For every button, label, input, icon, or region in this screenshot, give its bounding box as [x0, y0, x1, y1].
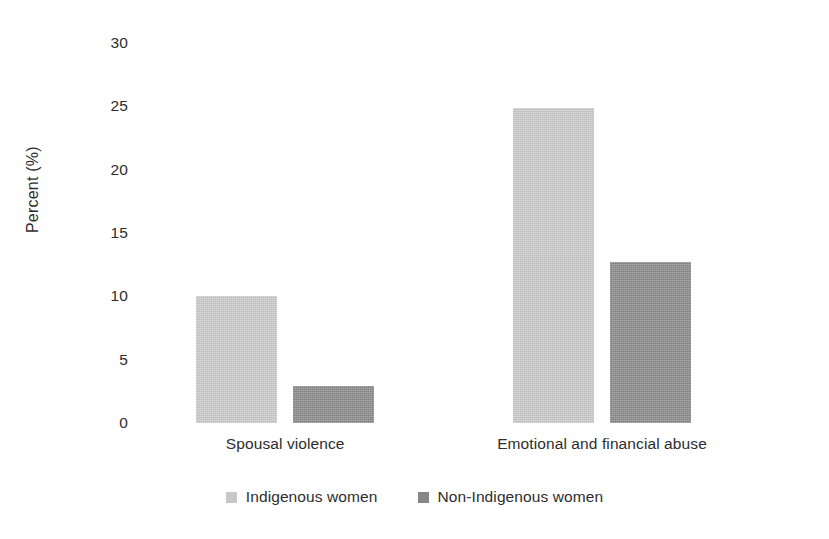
legend-item: Non-Indigenous women: [418, 488, 604, 506]
legend-swatch-icon: [418, 492, 429, 503]
bar: [513, 108, 594, 423]
y-axis-tick-label: 5: [68, 352, 128, 368]
y-axis-tick-label: 30: [68, 35, 128, 51]
y-axis-tick-label: 10: [68, 289, 128, 305]
x-axis-category-label: Spousal violence: [226, 435, 345, 453]
bar: [610, 262, 691, 423]
legend-label: Non-Indigenous women: [438, 488, 604, 506]
legend-item: Indigenous women: [226, 488, 378, 506]
legend-swatch-icon: [226, 492, 237, 503]
plot-area: 051015202530: [140, 43, 800, 423]
bar: [293, 386, 374, 423]
y-axis-tick-label: 15: [68, 225, 128, 241]
x-axis-category-label: Emotional and financial abuse: [497, 435, 707, 453]
legend-label: Indigenous women: [246, 488, 378, 506]
bar-chart-figure: Percent (%) 051015202530 Spousal violenc…: [0, 0, 829, 539]
y-axis-tick-label: 20: [68, 162, 128, 178]
y-axis-tick-label: 0: [68, 415, 128, 431]
chart-legend: Indigenous womenNon-Indigenous women: [0, 488, 829, 506]
y-axis-tick-label: 25: [68, 99, 128, 115]
y-axis-title: Percent (%): [24, 146, 42, 233]
bar: [196, 296, 277, 423]
